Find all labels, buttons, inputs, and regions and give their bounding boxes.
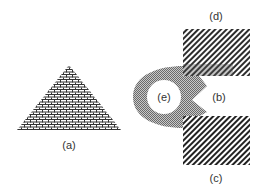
hatched-rect-c xyxy=(183,116,250,165)
label-b: (b) xyxy=(212,91,225,103)
label-e: (e) xyxy=(157,91,170,103)
label-c: (c) xyxy=(210,172,223,184)
label-d: (d) xyxy=(209,10,222,22)
label-a: (a) xyxy=(62,139,75,151)
overlap-band xyxy=(183,64,233,76)
triangle-shape-a xyxy=(17,65,121,130)
figure-canvas: (a) (d) (b) (c) (e) xyxy=(0,0,266,194)
